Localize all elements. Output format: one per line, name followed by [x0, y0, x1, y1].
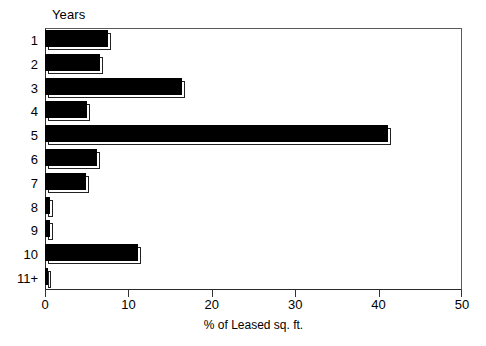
- category-tick-label: 5: [31, 128, 38, 143]
- bar: [45, 197, 50, 214]
- bar-face: [45, 101, 87, 118]
- bar: [45, 78, 182, 95]
- bars-container: 1234567891011+: [45, 28, 462, 290]
- bar: [45, 149, 97, 166]
- category-tick-label: 4: [31, 104, 38, 119]
- bar-face: [45, 54, 100, 71]
- x-axis-tick-label: 40: [371, 297, 385, 313]
- bar-face: [45, 78, 182, 95]
- x-axis-tick: [379, 290, 380, 297]
- category-tick-label: 8: [31, 199, 38, 214]
- bar-row: 5: [45, 123, 462, 147]
- category-tick-label: 3: [31, 80, 38, 95]
- category-tick-label: 7: [31, 175, 38, 190]
- bar: [45, 101, 87, 118]
- category-tick-label: 9: [31, 223, 38, 238]
- bar-row: 6: [45, 147, 462, 171]
- bar-face: [45, 125, 388, 142]
- x-axis-tick-label: 20: [205, 297, 219, 313]
- bar-face: [45, 30, 108, 47]
- bar: [45, 30, 108, 47]
- category-tick-label: 1: [31, 32, 38, 47]
- bar-row: 9: [45, 219, 462, 243]
- bar: [45, 173, 86, 190]
- bar-chart: Years 1234567891011+ 01020304050 % of Le…: [0, 0, 486, 346]
- x-axis-tick: [128, 290, 129, 297]
- bar-row: 4: [45, 99, 462, 123]
- bar-face: [45, 220, 50, 237]
- x-axis-tick: [295, 290, 296, 297]
- bar-row: 3: [45, 76, 462, 100]
- bar: [45, 125, 388, 142]
- bar-face: [45, 244, 138, 261]
- bar: [45, 54, 100, 71]
- bar-row: 8: [45, 195, 462, 219]
- x-axis-tick-label: 50: [455, 297, 469, 313]
- category-tick-label: 10: [24, 247, 38, 262]
- x-axis-tick: [212, 290, 213, 297]
- x-axis-tick-label: 30: [288, 297, 302, 313]
- bar-row: 7: [45, 171, 462, 195]
- category-tick-label: 11+: [17, 271, 38, 286]
- bar-face: [45, 197, 50, 214]
- x-axis-tick-labels: 01020304050: [45, 297, 462, 315]
- x-axis-tick: [461, 290, 462, 297]
- bar-face: [45, 268, 48, 285]
- x-axis-tick-label: 10: [121, 297, 135, 313]
- category-axis-title: Years: [52, 7, 85, 22]
- bar-face: [45, 173, 86, 190]
- bar: [45, 244, 138, 261]
- bar-row: 10: [45, 242, 462, 266]
- bar: [45, 268, 48, 285]
- bar-row: 1: [45, 28, 462, 52]
- category-tick-label: 6: [31, 151, 38, 166]
- category-tick-label: 2: [31, 56, 38, 71]
- bar: [45, 220, 50, 237]
- bar-row: 11+: [45, 266, 462, 290]
- x-axis-tick-label: 0: [41, 297, 48, 313]
- bar-face: [45, 149, 97, 166]
- value-axis-title: % of Leased sq. ft.: [45, 318, 462, 333]
- x-axis-tick: [45, 290, 46, 297]
- bar-row: 2: [45, 52, 462, 76]
- bar-shadow: [48, 271, 51, 288]
